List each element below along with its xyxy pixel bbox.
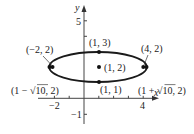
label-root: 10 [35,85,45,96]
point-1-minus-root10-2 [48,65,52,69]
label-root: 10 [162,85,172,96]
y-tick-label-neg1: −1 [71,109,82,120]
y-tick-label-5: 5 [76,16,81,27]
points [48,50,149,84]
label-1-2: (1, 2) [104,62,126,74]
point-1-2-center [97,65,101,69]
label-suffix: , 2) [172,85,185,97]
x-tick-label-neg2: −2 [49,100,60,111]
pointer-neg2-2 [43,56,52,65]
label-4-2: (4, 2) [141,43,163,55]
label-1-plus-root10-2: (1 + √10, 2) [138,85,186,97]
label-1-3: (1, 3) [89,37,111,49]
label-prefix: (1 + [138,85,157,97]
ellipse-diagram: −2 4 x 5 −1 y (1, 3) (1, 2) (1, 1) (−2, … [0,0,194,134]
label-suffix: , 2) [45,85,58,97]
x-tick-label-4: 4 [140,100,145,111]
y-axis: 5 −1 y [71,2,87,124]
point-1-3 [97,50,101,54]
label-neg2-2: (−2, 2) [26,44,53,56]
label-1-1: (1, 1) [100,84,122,96]
label-1-minus-root10-2: (1 − √10, 2) [11,85,59,97]
y-axis-label: y [74,2,80,13]
point-1-plus-root10-2 [145,65,149,69]
y-axis-arrow-icon [82,5,87,12]
svg-text:(1 + √10, 2): (1 + √10, 2) [138,85,186,97]
label-prefix: (1 − [11,85,30,97]
svg-text:(1 − √10, 2): (1 − √10, 2) [11,85,59,97]
